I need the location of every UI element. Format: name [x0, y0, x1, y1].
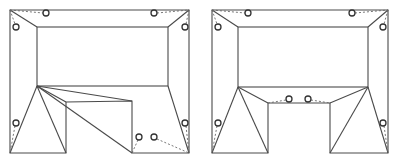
left-drain-3	[13, 24, 19, 30]
roof-plan-diagram	[0, 0, 398, 163]
left-dash-8	[157, 139, 189, 153]
left-drain-8	[151, 134, 157, 140]
left-drain-1	[43, 10, 49, 16]
right-drain-4	[380, 24, 386, 30]
right-drain-7	[286, 96, 292, 102]
left-fan-1	[10, 86, 37, 153]
left-panel	[10, 10, 189, 153]
right-fan-l3	[238, 87, 268, 103]
left-drain-5	[13, 120, 19, 126]
left-inner-rect	[37, 27, 168, 86]
right-drain-8	[305, 96, 311, 102]
right-drain-6	[380, 120, 386, 126]
right-drain-1	[245, 10, 251, 16]
left-dash-5	[10, 126, 15, 153]
right-dash-6	[384, 126, 388, 153]
right-drain-3	[215, 24, 221, 30]
right-fan-r3	[330, 87, 368, 103]
left-dash-7	[132, 140, 138, 153]
right-fan-l1	[212, 87, 238, 153]
right-dash-5	[212, 126, 217, 153]
right-fan-r2	[330, 87, 368, 153]
right-drain-5	[215, 120, 221, 126]
left-drain-2	[151, 10, 157, 16]
right-drain-2	[349, 10, 355, 16]
left-drain-7	[136, 134, 142, 140]
diagram-canvas	[0, 0, 398, 163]
left-drain-6	[182, 120, 188, 126]
right-fan-l2	[238, 87, 268, 153]
left-drain-4	[182, 24, 188, 30]
right-panel	[212, 10, 388, 153]
right-inner-rect	[238, 27, 368, 87]
